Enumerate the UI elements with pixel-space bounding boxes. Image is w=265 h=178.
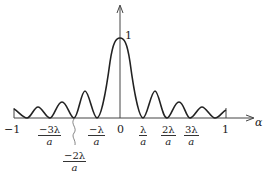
x-axis-label: α	[255, 117, 262, 128]
diffraction-plot	[0, 0, 265, 178]
tick-label-pos1: λ a	[139, 124, 147, 147]
tick-label-neg2: −2λ a	[63, 150, 86, 173]
right-end-label: 1	[222, 124, 229, 135]
peak-label: 1	[125, 30, 132, 41]
tick-label-neg3: −3λ a	[38, 124, 61, 147]
origin-label: 0	[117, 124, 124, 135]
tick-label-pos3: 3λ a	[184, 124, 199, 147]
left-end-label: −1	[4, 124, 20, 135]
leader-line-neg2	[73, 119, 75, 145]
tick-label-neg1: −λ a	[88, 124, 105, 147]
tick-label-pos2: 2λ a	[161, 124, 176, 147]
